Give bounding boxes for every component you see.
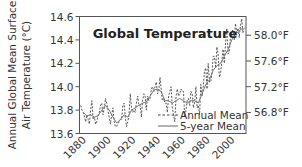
y-tick-label: 13.6 bbox=[50, 128, 74, 140]
x-tick-label: 1960 bbox=[160, 133, 187, 160]
y-tick-label: 14.6 bbox=[50, 11, 74, 23]
y2-tick-label: 57.6°F bbox=[254, 55, 289, 67]
y-axis-right-fahrenheit: 58.0°F57.6°F57.2°F56.8°F bbox=[246, 29, 289, 118]
x-tick-label: 1920 bbox=[110, 133, 137, 160]
x-tick-label: 1940 bbox=[135, 133, 162, 160]
y-tick-label: 14.0 bbox=[50, 81, 73, 93]
x-axis: 1880190019201940196019802000 bbox=[61, 133, 237, 160]
y-axis-left: 13.613.814.014.214.414.6 bbox=[50, 11, 79, 140]
legend: Annual Mean 5-year Mean bbox=[158, 109, 248, 132]
y-axis-title-line-2: Air Temperature (°C) bbox=[20, 21, 32, 129]
y-tick-label: 14.4 bbox=[50, 34, 74, 46]
chart-title: Global Temperature bbox=[93, 26, 238, 41]
y-tick-label: 14.2 bbox=[50, 57, 73, 69]
y-axis-title: Annual Global Mean Surface Air Temperatu… bbox=[6, 1, 32, 150]
x-tick-label: 1980 bbox=[185, 133, 212, 160]
y-tick-label: 13.8 bbox=[50, 104, 73, 116]
temperature-chart: Annual Global Mean Surface Air Temperatu… bbox=[0, 0, 302, 167]
x-tick-label: 1900 bbox=[86, 133, 113, 160]
y2-tick-label: 57.2°F bbox=[254, 81, 289, 93]
y-axis-title-line-1: Annual Global Mean Surface bbox=[6, 1, 18, 150]
y2-tick-label: 56.8°F bbox=[254, 106, 289, 118]
legend-5-year-mean-label: 5-year Mean bbox=[180, 120, 246, 132]
y2-tick-label: 58.0°F bbox=[254, 29, 289, 41]
x-tick-label: 2000 bbox=[209, 133, 236, 160]
